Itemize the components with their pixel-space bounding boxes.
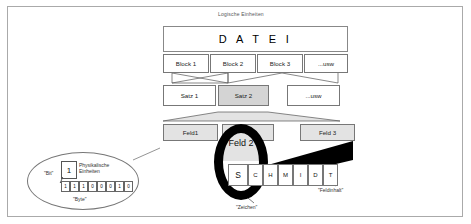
bit-cell-4: 0 — [97, 181, 106, 192]
physical-units-title-line2: Einheiten — [79, 168, 131, 174]
bit-cell-0: 1 — [61, 181, 70, 192]
block-box-usw: ...usw — [304, 54, 348, 73]
bit-cell-1: 1 — [70, 181, 79, 192]
file-box-datei: D A T E I — [163, 26, 348, 52]
block-box-1: Block 1 — [163, 54, 209, 73]
bit-cell-5: 0 — [106, 181, 115, 192]
field-label-feld2: Feld 2 — [218, 138, 264, 148]
callout-zeichen: "Zeichen" — [236, 204, 257, 210]
block-box-2: Block 2 — [210, 54, 256, 73]
char-cell-s: S — [228, 164, 248, 186]
top-label: Logische Einheiten — [218, 11, 264, 17]
record-box-usw: ...usw — [287, 85, 340, 106]
diagram-canvas: Logische Einheiten D A T E I Block 1 Blo… — [0, 0, 471, 224]
record-box-satz2: Satz 2 — [218, 85, 269, 106]
bit-cell-6: 1 — [115, 181, 124, 192]
bit-cell-3: 0 — [88, 181, 97, 192]
label-bit: "Bit" — [44, 170, 53, 176]
physical-units-title: Physikalische Einheiten — [79, 162, 131, 175]
record-box-satz1: Satz 1 — [163, 85, 216, 106]
callout-feldinhalt: "Feldinhalt" — [318, 187, 343, 193]
char-cell-i: I — [293, 164, 308, 186]
char-cell-c: C — [248, 164, 263, 186]
magnifier-ellipse — [214, 124, 268, 200]
char-cell-h: H — [263, 164, 278, 186]
char-cell-t: T — [323, 164, 338, 186]
label-byte: "Byte" — [73, 196, 87, 202]
char-cell-m: M — [278, 164, 293, 186]
bit-cell-2: 1 — [79, 181, 88, 192]
block-box-3: Block 3 — [257, 54, 303, 73]
bit-cell-7: 0 — [124, 181, 133, 192]
bit-card: 1 — [61, 161, 77, 179]
char-cell-d: D — [308, 164, 323, 186]
field-box-feld3: Feld 3 — [300, 124, 355, 141]
field-box-feld1: Feld1 — [163, 124, 218, 141]
